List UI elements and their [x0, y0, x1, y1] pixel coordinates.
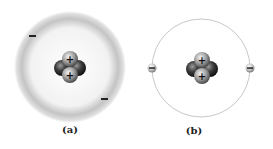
plus-icon: + — [66, 54, 74, 65]
minus-icon — [149, 67, 155, 69]
panel-a: + + — [14, 11, 126, 123]
plus-icon: + — [198, 71, 206, 82]
atom-diagram: + + + + — [0, 0, 273, 149]
plus-icon: + — [66, 70, 74, 81]
electron-left — [148, 64, 157, 73]
electron-right — [246, 64, 255, 73]
plus-icon: + — [198, 55, 206, 66]
panel-b: + + — [148, 19, 255, 117]
electron-minus-icon — [29, 35, 36, 37]
electron-minus-icon — [101, 98, 108, 100]
panel-a-label: (a) — [62, 124, 78, 135]
panel-b-label: (b) — [186, 125, 202, 136]
nucleus-b: + + — [186, 52, 218, 84]
minus-icon — [247, 67, 253, 69]
